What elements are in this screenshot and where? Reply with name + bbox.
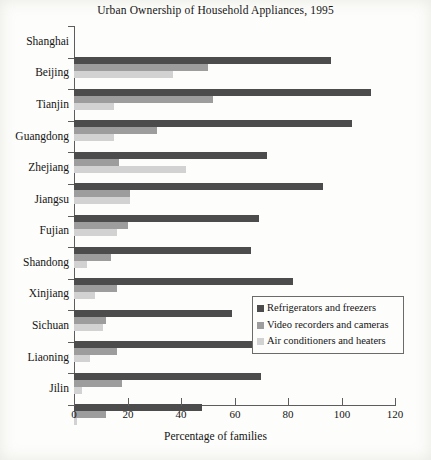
bar	[74, 261, 87, 268]
y-axis-category-label: Guangdong	[15, 130, 69, 142]
bar	[74, 134, 114, 141]
bar-group	[74, 215, 395, 247]
bar	[74, 183, 323, 190]
bar	[74, 285, 117, 292]
x-axis-tick	[181, 398, 182, 406]
legend-item-label: Video recorders and cameras	[267, 319, 389, 331]
chart-title: Urban Ownership of Household Appliances,…	[0, 4, 431, 16]
y-axis-tick	[68, 89, 74, 90]
y-axis-category-label: Sichuan	[32, 319, 69, 331]
legend-swatch-icon	[257, 322, 264, 329]
x-axis-title: Percentage of families	[0, 430, 431, 442]
y-axis-category-label: Beijing	[35, 66, 69, 78]
y-axis-category-label: Jiangsu	[35, 193, 70, 205]
y-axis-tick	[68, 342, 74, 343]
bar	[74, 387, 82, 394]
bar	[74, 71, 173, 78]
bar-group	[74, 152, 395, 184]
bar	[74, 120, 352, 127]
x-axis-tick	[395, 398, 396, 406]
y-axis-category-label: Shanghai	[26, 35, 69, 47]
bar	[74, 127, 157, 134]
bar-group	[74, 89, 395, 121]
bar	[74, 96, 213, 103]
bar	[74, 57, 331, 64]
bar	[74, 215, 259, 222]
bar	[74, 64, 208, 71]
bar	[74, 411, 106, 418]
x-axis-tick	[342, 398, 343, 406]
x-axis-tick-label: 100	[334, 408, 351, 420]
x-axis-tick-label: 20	[123, 408, 134, 420]
legend-item: Refrigerators and freezers	[257, 302, 399, 314]
legend-item-label: Refrigerators and freezers	[267, 302, 376, 314]
bar	[74, 317, 106, 324]
bar	[74, 166, 186, 173]
y-axis-tick	[68, 373, 74, 374]
bar	[74, 222, 128, 229]
bar	[74, 89, 371, 96]
y-axis-category-label: Fujian	[40, 224, 69, 236]
y-axis-tick	[68, 216, 74, 217]
bar	[74, 103, 114, 110]
y-axis-tick	[68, 26, 74, 27]
y-axis-category-label: Liaoning	[27, 351, 69, 363]
y-axis-tick	[68, 310, 74, 311]
x-axis-tick-label: 40	[176, 408, 187, 420]
legend-swatch-icon	[257, 305, 264, 312]
bar	[74, 355, 90, 362]
x-axis-tick-label: 0	[71, 408, 77, 420]
bar	[74, 278, 293, 285]
x-axis-tick-label: 120	[387, 408, 404, 420]
chart-figure: Urban Ownership of Household Appliances,…	[0, 0, 431, 460]
x-axis-tick-label: 80	[283, 408, 294, 420]
chart-legend: Refrigerators and freezers Video recorde…	[252, 296, 404, 354]
bar	[74, 310, 232, 317]
y-axis-category-label: Zhejiang	[28, 161, 69, 173]
bar-group	[74, 120, 395, 152]
bar	[74, 292, 95, 299]
x-axis-tick	[288, 398, 289, 406]
bar	[74, 341, 269, 348]
bar	[74, 324, 103, 331]
x-axis-tick	[128, 398, 129, 406]
x-axis-tick-label: 60	[230, 408, 241, 420]
y-axis-category-label: Xinjiang	[29, 287, 69, 299]
bar	[74, 159, 119, 166]
bar-group	[74, 183, 395, 215]
bar	[74, 373, 261, 380]
x-axis-tick	[74, 398, 75, 406]
x-axis-tick	[235, 398, 236, 406]
bar	[74, 247, 251, 254]
legend-item: Video recorders and cameras	[257, 319, 399, 331]
y-axis-tick	[68, 279, 74, 280]
bar	[74, 152, 267, 159]
bar-group	[74, 247, 395, 279]
legend-swatch-icon	[257, 338, 264, 345]
bar	[74, 380, 122, 387]
bar-group	[74, 57, 395, 89]
legend-item: Air conditioners and heaters	[257, 335, 399, 347]
y-axis-tick	[68, 184, 74, 185]
y-axis-tick	[68, 152, 74, 153]
bar	[74, 348, 117, 355]
bar	[74, 190, 130, 197]
y-axis-category-label: Jilin	[49, 382, 69, 394]
bar	[74, 254, 111, 261]
legend-item-label: Air conditioners and heaters	[267, 335, 386, 347]
y-axis-category-label: Tianjin	[36, 98, 69, 110]
y-axis-tick	[68, 247, 74, 248]
y-axis-category-label: Shandong	[23, 256, 69, 268]
y-axis-tick	[68, 121, 74, 122]
bar	[74, 197, 130, 204]
y-axis-tick	[68, 58, 74, 59]
bar	[74, 229, 117, 236]
